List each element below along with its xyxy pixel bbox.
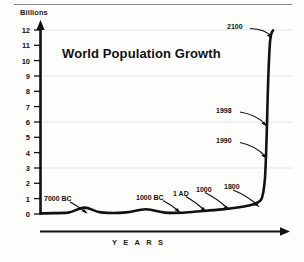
chart-title: World Population Growth bbox=[62, 46, 221, 61]
y-tick-label-9: 9 bbox=[16, 72, 30, 81]
chart-canvas bbox=[0, 0, 304, 262]
arrow-1000 bbox=[205, 193, 228, 209]
plot-area: Billions World Population Growth Y E A R… bbox=[0, 0, 304, 262]
x-axis-label: Y E A R S bbox=[112, 238, 165, 247]
annotation-1000: 1000 bbox=[196, 186, 212, 193]
annotation-1800: 1800 bbox=[224, 183, 240, 190]
y-tick-label-10: 10 bbox=[16, 57, 30, 66]
y-tick-label-6: 6 bbox=[16, 118, 30, 127]
y-tick-label-5: 5 bbox=[16, 133, 30, 142]
y-tick-label-2: 2 bbox=[16, 179, 30, 188]
y-tick-label-8: 8 bbox=[16, 87, 30, 96]
annotation-1-ad: 1 AD bbox=[173, 190, 189, 197]
y-axis-unit-label: Billions bbox=[20, 8, 48, 17]
y-tick-label-4: 4 bbox=[16, 149, 30, 158]
arrow-1990 bbox=[240, 143, 266, 158]
chart-figure: Billions World Population Growth Y E A R… bbox=[0, 0, 304, 262]
y-tick-label-7: 7 bbox=[16, 103, 30, 112]
y-tick-label-1: 1 bbox=[16, 195, 30, 204]
y-tick-label-12: 12 bbox=[16, 26, 30, 35]
annotation-2100: 2100 bbox=[227, 23, 243, 30]
arrow-1998 bbox=[240, 112, 266, 125]
y-tick-label-11: 11 bbox=[16, 41, 30, 50]
y-axis bbox=[36, 20, 44, 215]
annotation-1990: 1990 bbox=[216, 137, 232, 144]
annotation-7000-bc: 7000 BC bbox=[44, 195, 72, 202]
x-axis bbox=[40, 227, 290, 236]
annotation-1998: 1998 bbox=[216, 107, 232, 114]
y-tick-label-0: 0 bbox=[16, 210, 30, 219]
y-tick-label-3: 3 bbox=[16, 164, 30, 173]
annotation-1000-bc: 1000 BC bbox=[136, 194, 164, 201]
